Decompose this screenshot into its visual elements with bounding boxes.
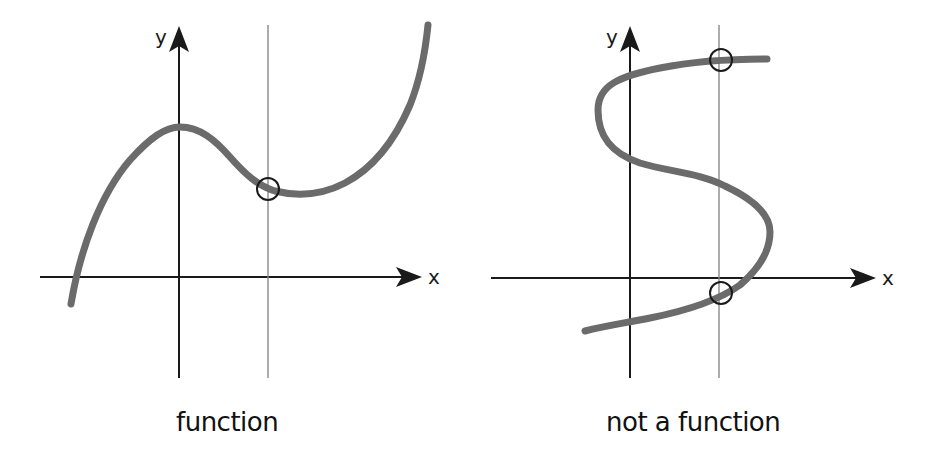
right-s-curve (585, 59, 770, 331)
left-function-curve (71, 25, 428, 304)
left-x-axis-label: x (428, 265, 440, 289)
right-graph-panel: x y (491, 25, 894, 378)
left-caption: function (176, 407, 278, 437)
right-y-axis-label: y (606, 25, 618, 49)
vertical-line-test-diagram: x y x y (0, 0, 928, 465)
right-caption: not a function (606, 407, 780, 437)
left-graph-panel: x y (40, 25, 440, 378)
left-y-axis-label: y (155, 25, 167, 49)
right-x-axis-label: x (882, 266, 894, 290)
